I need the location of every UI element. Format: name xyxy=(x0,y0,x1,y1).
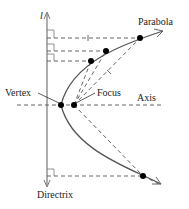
right-angle-marks xyxy=(47,30,54,176)
parabola-label: Parabola xyxy=(138,16,174,27)
directrix-label: Directrix xyxy=(37,189,73,200)
vertex-label: Vertex xyxy=(5,87,31,98)
curve-point xyxy=(140,173,146,179)
vertex-leader-line xyxy=(38,93,59,103)
curve-point xyxy=(137,35,143,41)
equal-tick-mark xyxy=(107,70,111,74)
focus-point xyxy=(71,102,77,108)
axis-label: Axis xyxy=(137,92,156,103)
curve-point xyxy=(103,48,109,54)
directrix-symbol-label: l xyxy=(40,10,43,21)
parabola-diagram: l Parabola Vertex Focus Axis Directrix xyxy=(0,0,189,209)
focus-label: Focus xyxy=(97,87,121,98)
focus-leader-line xyxy=(76,93,95,103)
vertex-point xyxy=(58,102,64,108)
curve-point xyxy=(88,58,94,64)
